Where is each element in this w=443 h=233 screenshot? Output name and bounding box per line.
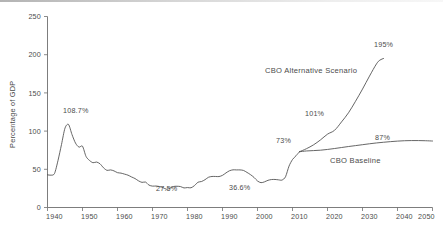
annotation-27-5-percent: 27.5%: [156, 184, 178, 193]
x-tick-label-2020: 2020: [326, 212, 343, 221]
y-tick-label-100: 100: [28, 127, 41, 136]
x-tick-label-1980: 1980: [186, 212, 203, 221]
series-line-cbo-baseline: [300, 141, 433, 152]
x-tick-label-1950: 1950: [81, 212, 98, 221]
annotation-87-percent: 87%: [375, 133, 390, 142]
x-tick-label-1990: 1990: [221, 212, 238, 221]
annotation-36-6-percent: 36.6%: [229, 183, 251, 192]
annotation-108-7-percent: 108.7%: [63, 106, 89, 115]
series-label-cbo-alternative-scenario: CBO Alternative Scenario: [265, 66, 357, 75]
x-tick-label-2010: 2010: [291, 212, 308, 221]
y-axis-ticks: [44, 17, 48, 208]
x-tick-label-2000: 2000: [256, 212, 273, 221]
debt-to-gdp-line-chart: 0 50 100 150 200 250 Percentage of GDP 1…: [0, 0, 443, 233]
x-axis-ticks: [48, 208, 433, 212]
y-tick-label-250: 250: [28, 12, 41, 21]
annotation-73-percent: 73%: [276, 136, 291, 145]
y-axis-title: Percentage of GDP: [8, 81, 17, 149]
chart-figure: 0 50 100 150 200 250 Percentage of GDP 1…: [0, 0, 443, 233]
series-label-cbo-baseline: CBO Baseline: [330, 156, 381, 165]
series-line-historical: [48, 124, 300, 189]
y-tick-label-50: 50: [33, 165, 41, 174]
y-tick-label-200: 200: [28, 50, 41, 59]
x-tick-label-1960: 1960: [116, 212, 133, 221]
annotation-101-percent: 101%: [305, 109, 325, 118]
x-tick-label-2030: 2030: [361, 212, 378, 221]
x-tick-label-1940: 1940: [46, 212, 63, 221]
annotation-195-percent: 195%: [374, 40, 394, 49]
x-tick-label-2040: 2040: [396, 212, 413, 221]
y-tick-label-0: 0: [37, 203, 41, 212]
x-tick-label-1970: 1970: [151, 212, 168, 221]
y-tick-label-150: 150: [28, 89, 41, 98]
x-tick-label-2050: 2050: [418, 212, 435, 221]
